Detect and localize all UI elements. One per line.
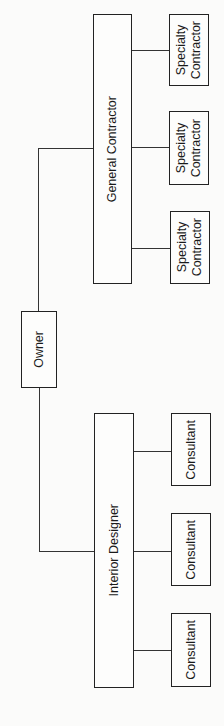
connector-owner-id-vertical xyxy=(39,387,40,552)
connector-id-c3 xyxy=(133,650,172,651)
connector-owner-id-horizontal xyxy=(39,551,95,552)
connector-gc-sc1 xyxy=(131,50,170,51)
connector-owner-gc-horizontal xyxy=(38,148,94,149)
consultant-box-2: Consultant xyxy=(171,513,211,586)
general-contractor-box: General Contractor xyxy=(93,14,132,284)
general-contractor-label: General Contractor xyxy=(105,96,120,202)
specialty-contractor-box-2: Specialty Contractor xyxy=(169,111,209,185)
consultant-box-1: Consultant xyxy=(171,413,211,486)
specialty-contractor-label: Specialty Contractor xyxy=(174,119,204,177)
consultant-label: Consultant xyxy=(184,420,199,480)
connector-gc-sc2 xyxy=(131,147,170,148)
owner-label: Owner xyxy=(32,331,47,368)
specialty-contractor-label: Specialty Contractor xyxy=(175,218,205,276)
owner-box: Owner xyxy=(21,311,57,388)
consultant-box-3: Consultant xyxy=(171,613,211,687)
connector-owner-gc-vertical xyxy=(38,148,39,311)
connector-id-c2 xyxy=(133,551,172,552)
connector-id-c1 xyxy=(133,451,172,452)
specialty-contractor-label: Specialty Contractor xyxy=(174,21,204,79)
specialty-contractor-box-1: Specialty Contractor xyxy=(169,14,209,86)
interior-designer-label: Interior Designer xyxy=(107,504,122,596)
interior-designer-box: Interior Designer xyxy=(94,413,134,688)
consultant-label: Consultant xyxy=(184,520,199,580)
connector-gc-sc3 xyxy=(131,248,170,249)
specialty-contractor-box-3: Specialty Contractor xyxy=(170,211,210,284)
consultant-label: Consultant xyxy=(184,620,199,680)
